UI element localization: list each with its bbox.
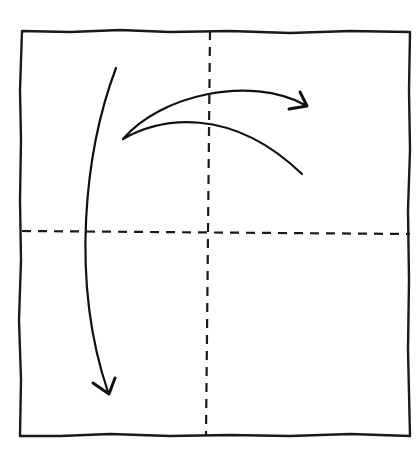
fold-down-arrow [85,68,116,392]
fold-right-arrow [123,91,305,139]
horizontal-fold-line [22,231,410,234]
fold-diagram [0,0,419,450]
unfold-curve [123,122,302,174]
